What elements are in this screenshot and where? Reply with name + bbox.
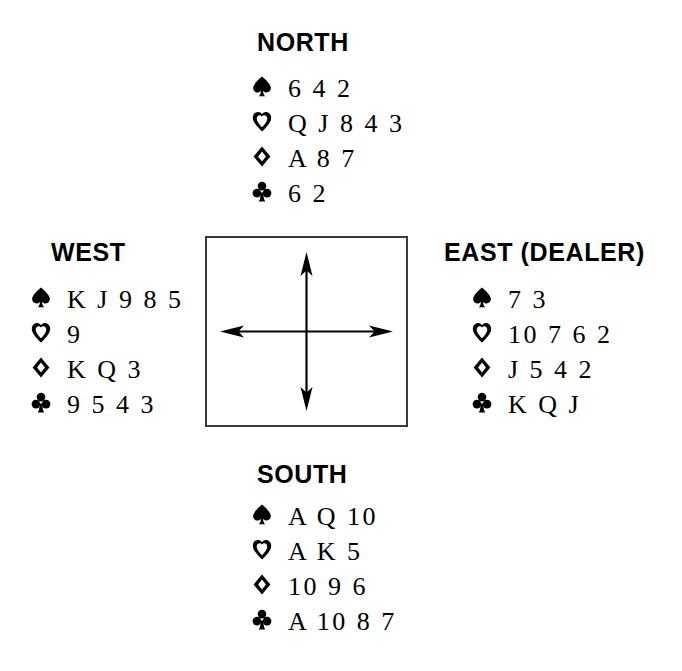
suit-row: 6 2 — [252, 177, 404, 212]
bridge-hand-diagram: NORTH 6 4 2 Q J 8 4 3 — [0, 0, 682, 671]
card-list: 6 2 — [288, 181, 328, 207]
suit-row: K Q J — [472, 388, 613, 423]
suit-row: A 8 7 — [252, 142, 404, 177]
card-list: A 8 7 — [288, 146, 357, 172]
spade-icon — [252, 72, 288, 97]
heart-icon — [252, 535, 288, 560]
club-icon — [252, 605, 288, 630]
card-list: Q J 8 4 3 — [288, 111, 404, 137]
card-list: K Q J — [508, 392, 581, 418]
hand-east: 7 3 10 7 6 2 J 5 4 2 — [472, 283, 613, 423]
hand-north: 6 4 2 Q J 8 4 3 A 8 7 — [252, 72, 404, 212]
seat-label-west: WEST — [51, 238, 126, 267]
suit-row: K Q 3 — [31, 353, 183, 388]
card-list: K J 9 8 5 — [67, 287, 183, 313]
suit-row: J 5 4 2 — [472, 353, 613, 388]
compass-arrows — [207, 238, 406, 425]
heart-icon — [31, 318, 67, 343]
spade-icon — [252, 500, 288, 525]
heart-icon — [252, 107, 288, 132]
suit-row: K J 9 8 5 — [31, 283, 183, 318]
card-list: 7 3 — [508, 287, 548, 313]
diamond-icon — [252, 570, 288, 595]
club-icon — [252, 177, 288, 202]
suit-row: 10 7 6 2 — [472, 318, 613, 353]
suit-row: 7 3 — [472, 283, 613, 318]
suit-row: A 10 8 7 — [252, 605, 397, 640]
diamond-icon — [472, 353, 508, 378]
card-list: A 10 8 7 — [288, 609, 397, 635]
card-list: 9 — [67, 322, 83, 348]
card-list: 10 9 6 — [288, 574, 368, 600]
hand-west: K J 9 8 5 9 K Q 3 — [31, 283, 183, 423]
card-list: 10 7 6 2 — [508, 322, 613, 348]
card-list: K Q 3 — [67, 357, 143, 383]
suit-row: Q J 8 4 3 — [252, 107, 404, 142]
club-icon — [472, 388, 508, 413]
card-list: J 5 4 2 — [508, 357, 594, 383]
seat-label-east: EAST (DEALER) — [444, 238, 645, 267]
spade-icon — [31, 283, 67, 308]
suit-row: 9 5 4 3 — [31, 388, 183, 423]
seat-label-north: NORTH — [257, 28, 349, 57]
diamond-icon — [252, 142, 288, 167]
spade-icon — [472, 283, 508, 308]
compass-box — [205, 236, 408, 427]
card-list: A Q 10 — [288, 504, 378, 530]
suit-row: A Q 10 — [252, 500, 397, 535]
card-list: 6 4 2 — [288, 76, 353, 102]
suit-row: 6 4 2 — [252, 72, 404, 107]
suit-row: 9 — [31, 318, 183, 353]
heart-icon — [472, 318, 508, 343]
diamond-icon — [31, 353, 67, 378]
hand-south: A Q 10 A K 5 10 9 6 — [252, 500, 397, 640]
suit-row: 10 9 6 — [252, 570, 397, 605]
club-icon — [31, 388, 67, 413]
card-list: 9 5 4 3 — [67, 392, 156, 418]
suit-row: A K 5 — [252, 535, 397, 570]
card-list: A K 5 — [288, 539, 363, 565]
seat-label-south: SOUTH — [257, 460, 348, 489]
